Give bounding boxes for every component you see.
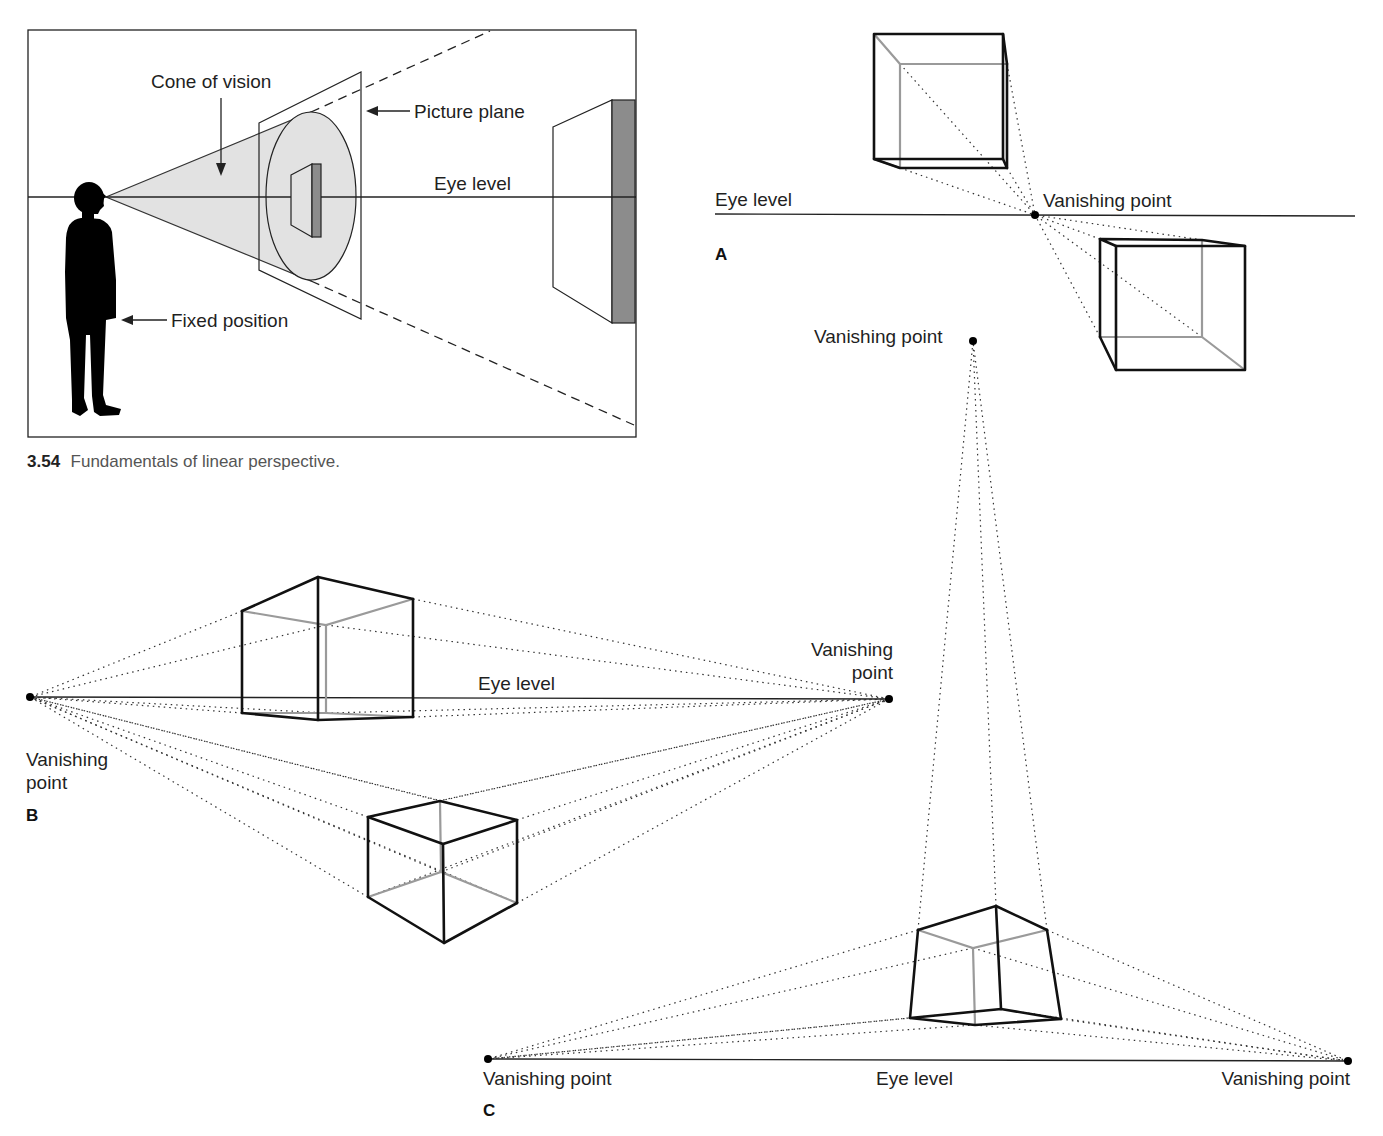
label-eye-level: Eye level <box>434 173 511 194</box>
distant-object <box>553 100 612 323</box>
label-fixed-position: Fixed position <box>171 310 288 331</box>
cube-above-eye-level <box>874 34 1007 168</box>
figure-caption: 3.54 Fundamentals of linear perspective. <box>27 452 340 471</box>
convergence-lines <box>488 341 1348 1061</box>
projected-object <box>291 164 312 237</box>
cube-below-eye-level <box>368 801 517 943</box>
panel-a-one-point: Eye level Vanishing point A <box>715 34 1355 370</box>
label-eye-level: Eye level <box>715 189 792 210</box>
label-top-vanishing-point: Vanishing point <box>814 326 943 347</box>
left-vanishing-point-dot <box>26 693 34 701</box>
top-vanishing-point-dot <box>969 337 977 345</box>
projected-object-side <box>312 164 321 237</box>
left-vanishing-point-dot <box>484 1055 492 1063</box>
label-left-vanishing-point: Vanishing point <box>483 1068 612 1089</box>
panel-letter-a: A <box>715 245 727 264</box>
caption-number: 3.54 <box>27 452 61 471</box>
panel-letter-c: C <box>483 1101 495 1120</box>
panel-c-three-point: Vanishing point Vanishing point Eye leve… <box>483 326 1352 1120</box>
cube-above-eye-level <box>910 906 1061 1025</box>
label-cone-of-vision: Cone of vision <box>151 71 271 92</box>
figure-linear-perspective: Cone of vision Picture plane Eye level F… <box>27 30 636 471</box>
label-left-vp-line1: Vanishing <box>26 749 108 770</box>
cube-straddling-eye-level <box>242 577 413 720</box>
label-vanishing-point: Vanishing point <box>1043 190 1172 211</box>
label-right-vp-line1: Vanishing <box>811 639 893 660</box>
convergence-lines <box>30 599 889 903</box>
right-vanishing-point-dot <box>1344 1057 1352 1065</box>
distant-object-side <box>612 100 635 323</box>
vanishing-point-dot <box>1031 211 1039 219</box>
label-right-vanishing-point: Vanishing point <box>1221 1068 1350 1089</box>
panel-b-two-point: Eye level Vanishing point Vanishing poin… <box>26 577 894 943</box>
cube-below-eye-level <box>1100 239 1245 370</box>
label-eye-level: Eye level <box>876 1068 953 1089</box>
eye-level-line <box>30 697 889 699</box>
label-eye-level: Eye level <box>478 673 555 694</box>
right-vanishing-point-dot <box>885 695 893 703</box>
perspective-diagram: Cone of vision Picture plane Eye level F… <box>0 0 1383 1136</box>
label-picture-plane: Picture plane <box>414 101 525 122</box>
panel-letter-b: B <box>26 806 38 825</box>
caption-text: Fundamentals of linear perspective. <box>71 452 340 471</box>
label-right-vp-line2: point <box>852 662 894 683</box>
label-left-vp-line2: point <box>26 772 68 793</box>
eye-level-line <box>488 1059 1348 1061</box>
